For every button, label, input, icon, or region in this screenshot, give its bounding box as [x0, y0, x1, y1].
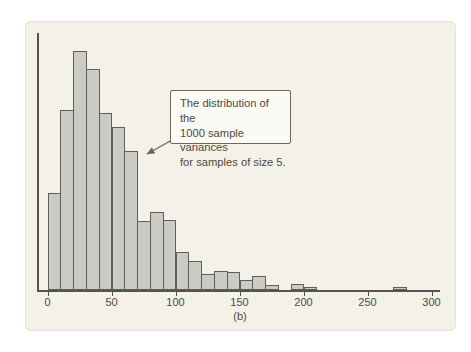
x-axis-tick: [112, 291, 113, 296]
histogram-bar: [86, 69, 100, 290]
x-axis-tick-label: 0: [44, 296, 50, 309]
x-axis-tick-label: 50: [105, 296, 117, 309]
histogram-figure: 050100150200250300 The distribution of t…: [0, 0, 471, 352]
histogram-bar: [252, 276, 266, 290]
x-axis-line: [37, 290, 440, 292]
histogram-bar: [265, 285, 279, 290]
x-axis-tick-label: 100: [166, 296, 184, 309]
histogram-bar: [176, 252, 190, 290]
x-axis-tick-label: 300: [422, 296, 440, 309]
x-axis-tick-label: 200: [294, 296, 312, 309]
histogram-bar: [137, 221, 151, 290]
histogram-bar: [240, 280, 254, 290]
histogram-bar: [291, 284, 305, 290]
y-axis-line: [37, 33, 39, 291]
x-axis-tick-label: 250: [358, 296, 376, 309]
x-axis-tick: [48, 291, 49, 296]
annotation-box: The distribution of the 1000 sample vari…: [170, 90, 291, 144]
annotation-text-line: 1000 sample variances: [180, 126, 286, 156]
histogram-bar: [99, 113, 113, 290]
histogram-bar: [188, 261, 202, 290]
histogram-bar: [48, 193, 62, 290]
x-axis-tick: [240, 291, 241, 296]
annotation-text-line: The distribution of the: [180, 96, 286, 126]
arrow-line: [147, 140, 172, 154]
x-axis-tick: [432, 291, 433, 296]
histogram-bar: [304, 287, 318, 290]
x-axis-tick: [368, 291, 369, 296]
histogram-bar: [227, 272, 241, 290]
histogram-bar: [60, 110, 74, 290]
histogram-bar: [393, 287, 407, 290]
annotation-text-line: for samples of size 5.: [180, 155, 286, 170]
x-axis-tick: [176, 291, 177, 296]
histogram-bar: [112, 127, 126, 290]
histogram-bar: [150, 212, 164, 290]
histogram-bar: [163, 220, 177, 290]
histogram-bar: [214, 271, 228, 290]
x-axis-tick-label: 150: [230, 296, 248, 309]
x-axis-tick: [304, 291, 305, 296]
histogram-bar: [124, 151, 138, 290]
histogram-bar: [201, 274, 215, 290]
histogram-bar: [73, 51, 87, 290]
subfigure-label: (b): [233, 310, 246, 322]
